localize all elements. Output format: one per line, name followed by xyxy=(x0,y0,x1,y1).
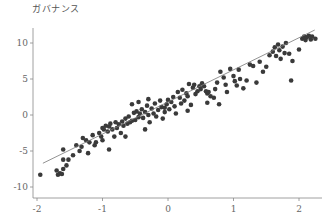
data-point xyxy=(231,74,236,79)
data-point xyxy=(162,110,167,115)
data-point xyxy=(77,149,82,154)
data-points xyxy=(38,34,318,178)
data-point xyxy=(205,100,210,105)
data-point xyxy=(61,147,66,152)
data-point xyxy=(225,90,230,95)
data-point xyxy=(233,79,238,84)
y-tick-label: -10 xyxy=(14,182,29,192)
data-point xyxy=(274,54,279,59)
data-point xyxy=(267,53,272,58)
data-point xyxy=(251,64,256,69)
data-point xyxy=(153,101,158,106)
data-point xyxy=(187,82,192,87)
data-point xyxy=(189,103,194,108)
data-point xyxy=(126,114,131,119)
data-point xyxy=(290,59,295,64)
data-point xyxy=(130,102,135,107)
data-point xyxy=(182,98,187,103)
data-point xyxy=(221,75,226,80)
data-point xyxy=(217,102,222,107)
data-point xyxy=(162,106,167,111)
data-point xyxy=(264,64,269,69)
data-point xyxy=(282,51,287,56)
data-point xyxy=(141,116,146,121)
data-point xyxy=(107,147,112,152)
data-point xyxy=(154,114,159,119)
data-point xyxy=(94,140,99,145)
data-point xyxy=(261,70,266,75)
data-point xyxy=(287,52,292,57)
data-point xyxy=(81,136,86,141)
data-point xyxy=(172,104,177,109)
data-point xyxy=(212,95,217,100)
scatter-chart: -10-50510-2-1012 xyxy=(0,0,332,224)
y-tick-label: 10 xyxy=(17,38,29,48)
data-point xyxy=(297,47,302,52)
data-point xyxy=(60,172,65,177)
data-point xyxy=(223,82,228,87)
y-tick-label: 5 xyxy=(22,74,28,84)
data-point xyxy=(174,111,179,116)
data-point xyxy=(206,90,211,95)
data-point xyxy=(185,94,190,99)
data-point xyxy=(185,108,190,113)
data-point xyxy=(71,153,76,158)
data-point xyxy=(276,42,281,47)
regression-line xyxy=(43,30,315,163)
data-point xyxy=(278,57,283,62)
data-point xyxy=(147,120,152,125)
data-point xyxy=(158,98,163,103)
data-point xyxy=(143,127,148,132)
x-tick-label: 2 xyxy=(296,204,302,214)
data-point xyxy=(176,90,181,95)
x-tick-label: -1 xyxy=(98,204,107,214)
data-point xyxy=(244,78,249,83)
data-point xyxy=(257,59,262,64)
x-tick-label: 0 xyxy=(165,204,171,214)
data-point xyxy=(38,172,43,177)
data-point xyxy=(192,82,197,87)
data-point xyxy=(136,100,141,105)
data-point xyxy=(108,121,113,126)
data-point xyxy=(64,163,69,168)
data-point xyxy=(123,134,128,139)
data-point xyxy=(66,157,71,162)
data-point xyxy=(180,88,185,93)
data-point xyxy=(160,116,165,121)
data-point xyxy=(119,131,124,136)
data-point xyxy=(146,113,151,118)
data-point xyxy=(313,36,318,41)
data-point xyxy=(213,87,218,92)
data-point xyxy=(241,86,246,91)
data-point xyxy=(61,157,66,162)
y-tick-label: 0 xyxy=(22,110,28,120)
data-point xyxy=(218,70,223,75)
y-tick-label: -5 xyxy=(19,146,28,156)
data-point xyxy=(112,134,117,139)
data-point xyxy=(90,133,95,138)
data-point xyxy=(86,151,91,156)
data-point xyxy=(254,80,259,85)
data-point xyxy=(145,103,150,108)
data-point xyxy=(61,167,66,172)
data-point xyxy=(238,77,243,82)
data-point xyxy=(234,83,239,88)
x-tick-label: 1 xyxy=(231,204,237,214)
data-point xyxy=(167,107,172,112)
data-point xyxy=(289,78,294,83)
data-point xyxy=(215,80,220,85)
data-point xyxy=(146,97,151,102)
x-tick-label: -2 xyxy=(33,204,42,214)
